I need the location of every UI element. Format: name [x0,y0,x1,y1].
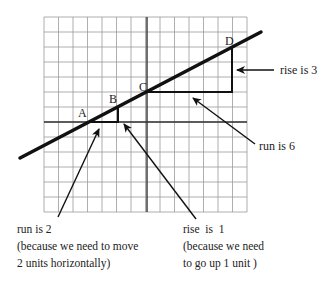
rise-3-label: rise is 3 [280,63,317,77]
sloped-line [20,32,261,158]
point-label-a: A [78,106,87,120]
rise-1-label-line3: to go up 1 unit ) [183,257,257,270]
run-2-label-line1: run is 2 [17,223,52,235]
point-label-b: B [109,92,117,106]
run-6-label: run is 6 [259,139,295,153]
run-2-label-line2: (because we need to move [17,240,138,253]
rise-1-label-line2: (because we need [183,240,264,253]
slope-diagram: A B C D rise is 3 run is 6 run is 2 (bec… [0,0,335,282]
run-2-label-line3: 2 units horizontally) [17,257,110,270]
point-label-d: D [225,34,234,48]
point-label-c: C [139,80,147,94]
diagram-canvas: A B C D rise is 3 run is 6 run is 2 (bec… [0,0,335,282]
arrow-run-2 [58,129,99,217]
rise-1-label-line1: rise is 1 [183,223,225,235]
